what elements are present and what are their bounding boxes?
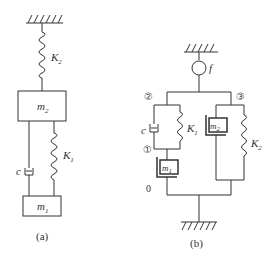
spring-k1-b: K1 [178,105,198,149]
mass-m2-b-label: m2 [210,121,221,133]
diagram-b: f ② ③ c K1 ① m1 0 [141,44,262,250]
spring-k1-b-label: K1 [186,122,198,137]
damper-c-label: c [16,165,21,177]
spring-mass-figure: K2 m2 c K1 m1 (a) [0,0,276,258]
mass-m2-label: m2 [37,100,49,115]
node-3-label: ③ [236,91,245,102]
caption-a: (a) [36,230,49,243]
spring-k2-label: K2 [50,51,62,66]
force-f-label: f [209,62,214,74]
mass-m1-a: m1 [23,196,61,216]
node-0-label: 0 [146,183,151,194]
mass-m1-label: m1 [37,200,48,215]
spring-k2-b: K2 [242,105,263,180]
ground-top-a [26,15,63,23]
mass-m1-b: m1 [157,157,178,177]
node-1-label: ① [143,144,152,155]
damper-c-a: c [16,121,33,196]
spring-k1-label: K1 [62,149,74,164]
node-2-label: ② [144,91,153,102]
figure-svg: K2 m2 c K1 m1 (a) [0,0,276,258]
force-source-f: f [192,61,214,75]
spring-k2-a: K2 [39,23,62,91]
mass-m2-a: m2 [18,91,66,121]
damper-c-b-label: c [141,124,146,136]
mass-m2-b: m2 [206,105,227,180]
ground-bottom-b [181,222,217,230]
spring-k2-b-label: K2 [250,137,262,152]
mass-m1-b-label: m1 [162,163,172,175]
diagram-a: K2 m2 c K1 m1 (a) [16,15,74,243]
ground-top-b [184,44,218,52]
caption-b: (b) [190,237,203,250]
damper-c-b: c [141,105,158,149]
spring-k1-a: K1 [51,121,74,196]
